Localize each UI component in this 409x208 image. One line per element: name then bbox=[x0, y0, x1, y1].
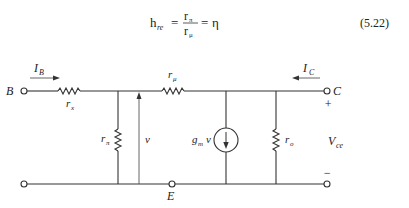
eq-den-r: r bbox=[184, 24, 188, 38]
ib-arrow-right-icon bbox=[53, 76, 60, 81]
v-arrowhead bbox=[137, 92, 142, 99]
terminal-b bbox=[21, 88, 27, 94]
label-gm-v: v bbox=[206, 133, 211, 145]
eq-num-r: r bbox=[184, 9, 188, 23]
equation-5-22: h re = r π r μ = η (5.22) bbox=[150, 9, 389, 39]
base-current-indicator: I B bbox=[30, 61, 60, 81]
label-gm-sub: m bbox=[198, 140, 203, 148]
terminal-c bbox=[324, 88, 330, 94]
label-rpi-sub: π bbox=[106, 139, 110, 147]
label-rmu-sub: μ bbox=[173, 75, 177, 83]
eq-rhs-eta: η bbox=[212, 15, 219, 30]
resistor-rmu bbox=[162, 88, 184, 94]
voltage-v-arrow bbox=[137, 92, 142, 184]
ib-label-sub: B bbox=[39, 68, 44, 77]
eq-equals-1: = bbox=[171, 15, 178, 30]
terminal-left-bottom bbox=[21, 181, 27, 187]
terminal-e bbox=[169, 181, 175, 187]
ic-arrow-left-icon bbox=[292, 76, 299, 81]
ic-label: I bbox=[302, 61, 308, 75]
label-c: C bbox=[333, 84, 342, 98]
label-b: B bbox=[6, 84, 14, 98]
eq-equals-2: = bbox=[201, 15, 208, 30]
resistor-rx bbox=[58, 88, 80, 94]
ic-label-sub: C bbox=[309, 68, 315, 77]
rpi-branch bbox=[115, 91, 121, 184]
top-rail bbox=[27, 88, 324, 94]
circuit-figure: h re = r π r μ = η (5.22) bbox=[0, 0, 409, 208]
eq-den-sub: μ bbox=[189, 31, 193, 39]
vce-plus: + bbox=[324, 97, 332, 111]
eq-number: (5.22) bbox=[360, 16, 389, 30]
label-e: E bbox=[166, 189, 175, 203]
eq-lhs-sub: re bbox=[157, 23, 164, 32]
terminal-right-bottom bbox=[324, 181, 330, 187]
resistor-rpi bbox=[115, 129, 121, 151]
collector-current-indicator: I C bbox=[292, 61, 320, 81]
vce-minus: − bbox=[323, 166, 331, 180]
eq-lhs: h bbox=[150, 15, 157, 30]
label-ro-sub: o bbox=[290, 140, 294, 148]
resistor-ro bbox=[273, 129, 279, 151]
label-rx-sub: x bbox=[70, 104, 75, 112]
ro-branch bbox=[273, 91, 279, 184]
dependent-current-source bbox=[214, 91, 238, 184]
vce-label-sub: ce bbox=[336, 141, 344, 150]
label-v: v bbox=[145, 133, 150, 145]
